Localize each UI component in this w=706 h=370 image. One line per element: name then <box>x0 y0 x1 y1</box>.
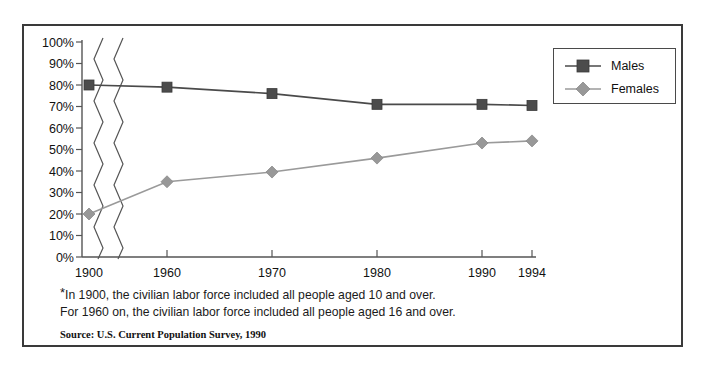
y-axis-tick-labels: 0%10%20%30%40%50%60%70%80%90%100% <box>42 36 74 265</box>
x-tick-label: 1960 <box>153 266 181 280</box>
x-tick-label: 1994 <box>518 266 546 280</box>
footnote-line-1: *In 1900, the civilian labor force inclu… <box>60 287 660 304</box>
x-axis-tick-marks <box>167 250 532 257</box>
data-point-male <box>84 80 94 90</box>
series-markers-males <box>84 80 537 110</box>
data-point-male <box>477 99 487 109</box>
chart-figure-frame: 0%10%20%30%40%50%60%70%80%90%100% 190019… <box>22 24 683 347</box>
x-tick-label: 1980 <box>363 266 391 280</box>
y-tick-label: 70% <box>49 100 74 114</box>
series-markers-females <box>83 135 538 220</box>
data-point-female <box>476 137 488 149</box>
legend-swatch-males-icon <box>563 58 603 74</box>
footnote-line-2: For 1960 on, the civilian labor force in… <box>60 304 660 321</box>
series-line-females <box>89 141 532 214</box>
y-tick-label: 10% <box>49 229 74 243</box>
legend-label-males: Males <box>611 59 644 73</box>
data-point-male <box>162 82 172 92</box>
legend-item-males: Males <box>554 55 675 77</box>
footnote-text-1: In 1900, the civilian labor force includ… <box>65 288 436 302</box>
data-point-female <box>266 166 278 178</box>
data-point-male <box>372 99 382 109</box>
legend-swatch-females-icon <box>563 81 603 97</box>
data-point-female <box>371 152 383 164</box>
chart-legend: Males Females <box>553 48 676 104</box>
axis-break-zigzag <box>94 38 123 259</box>
x-tick-label: 1900 <box>75 266 103 280</box>
data-point-female <box>526 135 538 147</box>
y-tick-label: 100% <box>42 36 74 50</box>
y-tick-label: 0% <box>56 251 74 265</box>
data-point-male <box>527 100 537 110</box>
x-tick-label: 1990 <box>468 266 496 280</box>
x-tick-label: 1970 <box>258 266 286 280</box>
y-tick-label: 80% <box>49 79 74 93</box>
data-point-female <box>161 176 173 188</box>
chart-source-note: Source: U.S. Current Population Survey, … <box>60 329 660 340</box>
data-point-female <box>83 208 95 220</box>
y-tick-label: 50% <box>49 143 74 157</box>
y-tick-label: 30% <box>49 186 74 200</box>
series-line-males <box>89 85 532 105</box>
data-point-male <box>267 89 277 99</box>
y-tick-label: 60% <box>49 122 74 136</box>
y-tick-label: 90% <box>49 57 74 71</box>
x-axis-tick-labels: 190019601970198019901994 <box>75 266 546 280</box>
y-tick-label: 40% <box>49 165 74 179</box>
y-axis-tick-marks <box>76 42 82 257</box>
y-tick-label: 20% <box>49 208 74 222</box>
chart-footnotes: *In 1900, the civilian labor force inclu… <box>60 287 660 340</box>
legend-label-females: Females <box>611 82 659 96</box>
legend-item-females: Females <box>554 78 675 100</box>
